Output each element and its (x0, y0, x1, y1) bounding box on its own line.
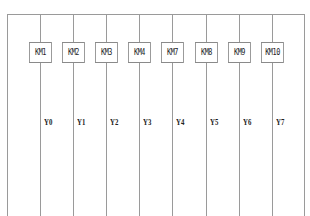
top-bus-line (7, 14, 305, 15)
output-label-y6: Y6 (243, 117, 251, 127)
contactor-box-km3: KM3 (95, 42, 118, 63)
contactor-box-km7: KM7 (161, 42, 184, 63)
contactor-box-km8: KM8 (195, 42, 218, 63)
contactor-box-km1: KM1 (29, 42, 52, 63)
right-rail-line (304, 14, 305, 216)
left-rail-line (7, 14, 8, 216)
output-label-y1: Y1 (77, 117, 85, 127)
output-label-y7: Y7 (276, 117, 284, 127)
output-label-y5: Y5 (210, 117, 218, 127)
output-label-y0: Y0 (44, 117, 52, 127)
output-label-y3: Y3 (143, 117, 151, 127)
contactor-box-km10: KM10 (261, 42, 284, 63)
contactor-box-km2: KM2 (62, 42, 85, 63)
output-label-y2: Y2 (110, 117, 118, 127)
contactor-box-km9: KM9 (228, 42, 251, 63)
output-label-y4: Y4 (176, 117, 184, 127)
contactor-box-km4: KM4 (128, 42, 151, 63)
